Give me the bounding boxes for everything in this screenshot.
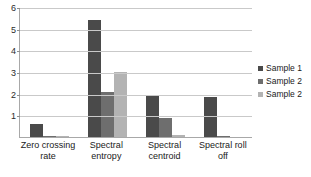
- legend-label: Sample 2: [266, 77, 302, 86]
- y-tick-mark: [17, 51, 20, 52]
- plot-wrapper: 123456 Zero crossingrateSpectralentropyS…: [0, 0, 256, 145]
- legend-item: Sample 2: [258, 75, 311, 88]
- y-tick-mark: [17, 30, 20, 31]
- legend-swatch-icon: [258, 92, 263, 97]
- gridline: [20, 95, 252, 96]
- y-tick-label: 1: [0, 112, 16, 121]
- legend-swatch-icon: [258, 66, 263, 71]
- x-axis: Zero crossingrateSpectralentropySpectral…: [19, 140, 252, 162]
- y-tick-mark: [17, 95, 20, 96]
- bar: [88, 20, 101, 137]
- legend-item: Sample 1: [258, 62, 311, 75]
- bar: [43, 136, 56, 137]
- bar: [30, 124, 43, 137]
- y-tick-label: 4: [0, 47, 16, 56]
- legend-label: Sample 2: [266, 90, 302, 99]
- gridline: [20, 73, 252, 74]
- y-tick-label: 3: [0, 69, 16, 78]
- legend-item: Sample 2: [258, 88, 311, 101]
- plot-area: [19, 8, 252, 138]
- bar: [56, 136, 69, 137]
- x-category-label: Spectral rolloff: [194, 140, 252, 162]
- bar: [101, 92, 114, 138]
- x-category-label: Zero crossingrate: [19, 140, 77, 162]
- y-tick-mark: [17, 116, 20, 117]
- y-tick-label: 6: [0, 4, 16, 13]
- gridline: [20, 8, 252, 9]
- gridline: [20, 30, 252, 31]
- gridline: [20, 116, 252, 117]
- y-tick-label: 2: [0, 90, 16, 99]
- y-axis: 123456: [0, 0, 16, 145]
- bar: [114, 72, 127, 137]
- y-tick-label: 5: [0, 25, 16, 34]
- gridline: [20, 51, 252, 52]
- bar: [172, 135, 185, 137]
- y-tick-mark: [17, 8, 20, 9]
- y-tick-mark: [17, 73, 20, 74]
- bar: [159, 118, 172, 138]
- x-category-label: Spectralentropy: [77, 140, 135, 162]
- legend-label: Sample 1: [266, 64, 302, 73]
- bar-chart: 123456 Zero crossingrateSpectralentropyS…: [0, 0, 311, 177]
- x-category-label: Spectralcentroid: [136, 140, 194, 162]
- bar: [217, 136, 230, 137]
- chart-legend: Sample 1Sample 2Sample 2: [258, 62, 311, 101]
- legend-swatch-icon: [258, 79, 263, 84]
